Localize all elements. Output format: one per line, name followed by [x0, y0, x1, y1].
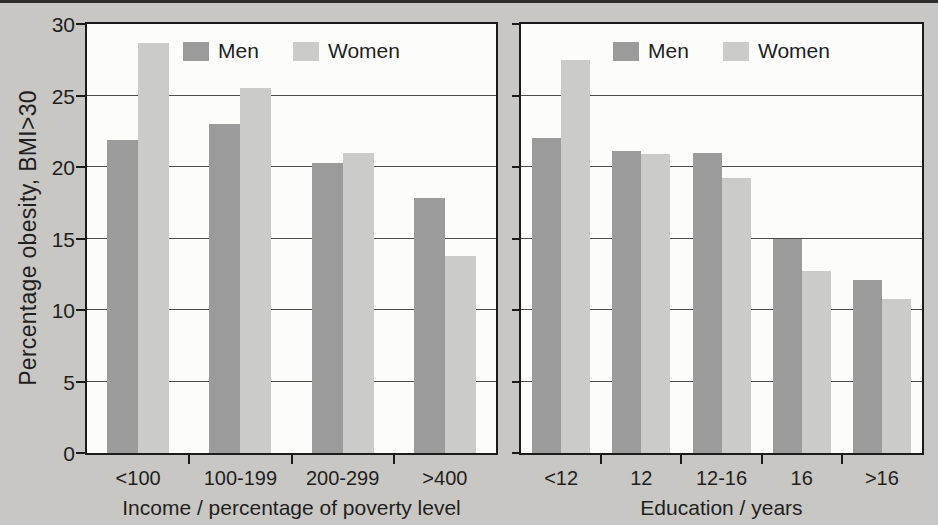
- bar-women-12: [561, 60, 590, 453]
- legend-label-men: Men: [648, 39, 689, 63]
- y-tick-mark-5: [512, 381, 519, 383]
- y-tick-mark-25: [76, 95, 85, 97]
- y-tick-mark-30: [512, 23, 519, 25]
- bar-women-200299: [343, 153, 374, 453]
- y-tick-label-30: 30: [33, 14, 75, 35]
- bar-men-100199: [209, 124, 240, 453]
- y-tick-label-15: 15: [33, 229, 75, 250]
- x-tick-mark-2: [291, 455, 293, 464]
- bar-men-100: [107, 140, 138, 453]
- x-category-label-12: <12: [521, 467, 601, 490]
- y-tick-mark-0: [512, 452, 519, 454]
- x-tick-mark-4: [841, 455, 843, 464]
- y-tick-mark-15: [512, 238, 519, 240]
- bar-women-400: [445, 256, 476, 453]
- bar-group->16: [842, 24, 922, 453]
- x-axis-title-1: Education / years: [521, 496, 922, 520]
- legend-label-women: Women: [328, 39, 400, 63]
- y-tick-label-10: 10: [33, 300, 75, 321]
- y-tick-mark-20: [512, 166, 519, 168]
- bar-men-16: [853, 280, 882, 453]
- bar-group-12: [601, 24, 681, 453]
- x-category-label-400: >400: [394, 467, 496, 490]
- bar-men-1216: [693, 153, 722, 453]
- x-category-label-1216: 12-16: [681, 467, 761, 490]
- x-tick-mark-2: [680, 455, 682, 464]
- legend-item-men: Men: [183, 39, 259, 63]
- bar-men-12: [612, 151, 641, 453]
- legend-swatch-men: [183, 42, 209, 61]
- bar-group-<100: [87, 24, 189, 453]
- x-tick-mark-1: [188, 455, 190, 464]
- x-tick-mark-3: [761, 455, 763, 464]
- legend-swatch-women: [293, 42, 319, 61]
- y-tick-mark-0: [76, 452, 85, 454]
- y-tick-mark-5: [76, 381, 85, 383]
- legend-label-women: Women: [758, 39, 830, 63]
- x-category-label-16: 16: [762, 467, 842, 490]
- legend-swatch-women: [723, 42, 749, 61]
- legend-label-men: Men: [218, 39, 259, 63]
- bar-women-16: [882, 299, 911, 453]
- bar-women-100: [138, 43, 169, 453]
- bar-women-100199: [240, 88, 271, 453]
- legend-item-women: Women: [723, 39, 830, 63]
- bars-row: [87, 24, 496, 453]
- y-tick-mark-15: [76, 238, 85, 240]
- bar-group-<12: [521, 24, 601, 453]
- x-category-label-200299: 200-299: [292, 467, 394, 490]
- x-category-label-12: 12: [601, 467, 681, 490]
- bar-men-12: [532, 138, 561, 453]
- bar-group-12-16: [681, 24, 761, 453]
- x-axis-title-0: Income / percentage of poverty level: [87, 496, 496, 520]
- y-tick-mark-10: [76, 309, 85, 311]
- scan-artifact-line: [0, 0, 938, 3]
- bar-women-12: [641, 154, 670, 453]
- obesity-figure: Percentage obesity, BMI>30 MenWomen05101…: [0, 0, 938, 525]
- y-tick-mark-10: [512, 309, 519, 311]
- bar-group-200-299: [292, 24, 394, 453]
- bars-row: [521, 24, 922, 453]
- education-chart: MenWomen<121212-1616>16Education / years: [519, 22, 924, 455]
- legend-swatch-men: [613, 42, 639, 61]
- bar-women-16: [802, 271, 831, 453]
- bar-men-400: [414, 198, 445, 453]
- y-tick-mark-20: [76, 166, 85, 168]
- x-category-label-100199: 100-199: [189, 467, 291, 490]
- income-chart: MenWomen051015202530<100100-199200-299>4…: [85, 22, 498, 455]
- y-tick-mark-30: [76, 23, 85, 25]
- x-category-label-16: >16: [842, 467, 922, 490]
- bar-men-200299: [312, 163, 343, 453]
- y-tick-label-0: 0: [33, 443, 75, 464]
- bar-women-1216: [722, 178, 751, 453]
- bar-group-16: [762, 24, 842, 453]
- legend-item-women: Women: [293, 39, 400, 63]
- legend: MenWomen: [87, 39, 496, 63]
- x-tick-mark-3: [393, 455, 395, 464]
- x-category-label-100: <100: [87, 467, 189, 490]
- y-tick-mark-25: [512, 95, 519, 97]
- bar-group->400: [394, 24, 496, 453]
- legend: MenWomen: [521, 39, 922, 63]
- legend-item-men: Men: [613, 39, 689, 63]
- bar-men-16: [773, 239, 802, 454]
- y-tick-label-5: 5: [33, 372, 75, 393]
- bar-group-100-199: [189, 24, 291, 453]
- x-tick-mark-1: [600, 455, 602, 464]
- y-tick-label-25: 25: [33, 86, 75, 107]
- y-tick-label-20: 20: [33, 157, 75, 178]
